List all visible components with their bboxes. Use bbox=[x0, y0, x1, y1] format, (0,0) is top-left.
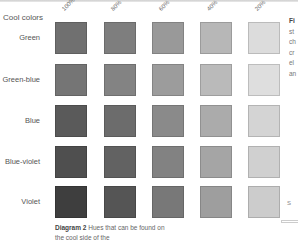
side-line: el bbox=[289, 58, 296, 69]
caption-label: Diagram 2 bbox=[55, 224, 86, 231]
color-swatch bbox=[152, 105, 184, 137]
side-line: Fi bbox=[289, 16, 296, 27]
color-swatch bbox=[104, 186, 136, 218]
color-swatch bbox=[55, 22, 87, 54]
side-line: ch bbox=[289, 37, 296, 48]
diagram-caption: Diagram 2 Hues that can be found on the … bbox=[55, 223, 165, 243]
color-swatch bbox=[200, 22, 232, 54]
side-mark: S bbox=[287, 200, 291, 206]
color-swatch bbox=[200, 64, 232, 96]
color-swatch bbox=[104, 105, 136, 137]
table-heading: Cool colors bbox=[3, 13, 43, 22]
color-swatch bbox=[55, 64, 87, 96]
side-rule bbox=[281, 220, 298, 223]
color-swatch bbox=[200, 146, 232, 178]
color-swatch bbox=[248, 146, 280, 178]
side-line: an bbox=[289, 69, 296, 80]
row-label: Green bbox=[19, 33, 40, 42]
color-swatch bbox=[152, 146, 184, 178]
color-swatch bbox=[55, 105, 87, 137]
color-swatch bbox=[248, 186, 280, 218]
color-swatch bbox=[55, 146, 87, 178]
color-swatch bbox=[152, 22, 184, 54]
color-swatch bbox=[248, 64, 280, 96]
color-swatch bbox=[104, 64, 136, 96]
color-swatch bbox=[200, 186, 232, 218]
row-label: Violet bbox=[21, 197, 40, 206]
side-line: st bbox=[289, 27, 296, 38]
top-border bbox=[0, 0, 298, 2]
row-label: Blue-violet bbox=[5, 157, 40, 166]
color-swatch bbox=[152, 186, 184, 218]
color-swatch bbox=[104, 146, 136, 178]
color-swatch bbox=[248, 22, 280, 54]
side-line: cr bbox=[289, 48, 296, 59]
color-swatch bbox=[55, 186, 87, 218]
row-label: Blue bbox=[25, 116, 40, 125]
color-swatch bbox=[104, 22, 136, 54]
color-swatch bbox=[200, 105, 232, 137]
color-swatch bbox=[248, 105, 280, 137]
color-swatch bbox=[152, 64, 184, 96]
row-label: Green-blue bbox=[2, 75, 40, 84]
adjacent-column-text: Fi st ch cr el an bbox=[289, 16, 296, 79]
